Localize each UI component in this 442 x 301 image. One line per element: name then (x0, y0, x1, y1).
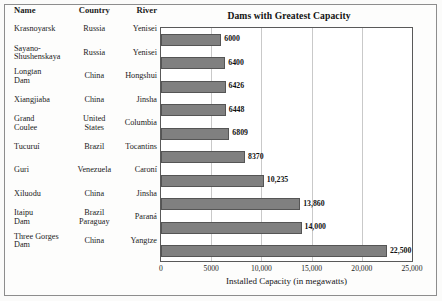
cell-line: Dam (14, 218, 70, 227)
cell-name: Three GorgesDam (5, 230, 72, 254)
bar-value-label: 8370 (248, 152, 264, 161)
cell-river: Caroní (116, 159, 160, 183)
bar[interactable] (161, 34, 221, 46)
cell-line: Paraguay (74, 218, 114, 227)
cell-line: Venezuela (74, 166, 114, 175)
figure-page: Name Country River KrasnoyarskRussiaYeni… (0, 0, 442, 301)
cell-country: Brazil (72, 136, 116, 160)
cell-country: Russia (72, 18, 116, 42)
cell-line: Brazil (74, 143, 114, 152)
cell-line: Yenisei (118, 25, 157, 34)
column-header-name: Name (5, 5, 72, 18)
cell-river: Jinsha (116, 89, 160, 113)
cell-line: Tucuruí (14, 143, 70, 152)
cell-line: Xiangjiaba (14, 96, 70, 105)
cell-line: Xiluodu (14, 190, 70, 199)
table-row: GuriVenezuelaCaroní (5, 159, 160, 183)
bar-value-label: 6400 (228, 58, 244, 67)
cell-name: Xiangjiaba (5, 89, 72, 113)
table-row: KrasnoyarskRussiaYenisei (5, 18, 160, 42)
cell-name: Krasnoyarsk (5, 18, 72, 42)
cell-name: Sayano-Shushenskaya (5, 42, 72, 66)
table-row: GrandCouleeUnitedStatesColumbia (5, 112, 160, 136)
x-axis-label: Installed Capacity (in megawatts) (160, 276, 413, 286)
cell-river: Hongshui (116, 65, 160, 89)
bar-value-label: 6000 (224, 34, 240, 43)
table-row: LongtanDamChinaHongshui (5, 65, 160, 89)
dam-info-table-panel: Name Country River KrasnoyarskRussiaYeni… (5, 5, 160, 295)
bar-value-label: 6448 (229, 105, 245, 114)
table-row: Sayano-ShushenskayaRussiaYenisei (5, 42, 160, 66)
x-tick-label: 20,000 (342, 264, 382, 273)
cell-river: Tocantins (116, 136, 160, 160)
cell-name: LongtanDam (5, 65, 72, 89)
bar-chart-panel: Dams with Greatest Capacity Installed Ca… (160, 5, 437, 296)
cell-line: Guri (14, 166, 70, 175)
cell-name: Guri (5, 159, 72, 183)
cell-line: States (74, 124, 114, 133)
cell-name: Xiluodu (5, 183, 72, 207)
table-header: Name Country River (5, 5, 160, 18)
cell-line: Russia (74, 49, 114, 58)
table-row: ItaipuDamBrazilParaguayParaná (5, 206, 160, 230)
cell-river: Yangtze (116, 230, 160, 254)
cell-line: Dam (14, 77, 70, 86)
x-tick-label: 25,000 (392, 264, 432, 273)
cell-line: Hongshui (118, 72, 157, 81)
bar[interactable] (161, 57, 225, 69)
cell-line: Yangtze (118, 237, 157, 246)
cell-line: Coulee (14, 124, 70, 133)
chart-title: Dams with Greatest Capacity (160, 10, 418, 21)
cell-line: Dam (14, 241, 70, 250)
cell-country: UnitedStates (72, 112, 116, 136)
cell-country: Venezuela (72, 159, 116, 183)
cell-river: Yenisei (116, 18, 160, 42)
table-row: XiluoduChinaJinsha (5, 183, 160, 207)
cell-country: China (72, 183, 116, 207)
cell-name: Tucuruí (5, 136, 72, 160)
cell-line: China (74, 190, 114, 199)
cell-line: China (74, 237, 114, 246)
cell-name: ItaipuDam (5, 206, 72, 230)
bar[interactable] (161, 151, 245, 163)
cell-line: Tocantins (118, 143, 157, 152)
table-row: XiangjiabaChinaJinsha (5, 89, 160, 113)
cell-line: Krasnoyarsk (14, 25, 70, 34)
bar-value-label: 6426 (229, 81, 245, 90)
cell-country: China (72, 65, 116, 89)
bar[interactable] (161, 175, 264, 187)
cell-line: Paraná (118, 213, 157, 222)
x-tick-label: 0 (141, 264, 181, 273)
dam-info-table: Name Country River KrasnoyarskRussiaYeni… (5, 5, 160, 253)
bar-value-label: 22,500 (390, 246, 411, 255)
bar[interactable] (161, 104, 226, 116)
cell-river: Paraná (116, 206, 160, 230)
bar[interactable] (161, 81, 226, 93)
table-body: KrasnoyarskRussiaYeniseiSayano-Shushensk… (5, 18, 160, 253)
x-tick-label: 10,000 (241, 264, 281, 273)
cell-line: Jinsha (118, 96, 157, 105)
bar[interactable] (161, 222, 302, 234)
x-tick-label: 5000 (191, 264, 231, 273)
bar[interactable] (161, 128, 229, 140)
cell-line: Columbia (118, 119, 157, 128)
x-tick-label: 15,000 (292, 264, 332, 273)
bar-value-label: 6809 (232, 128, 248, 137)
cell-line: Jinsha (118, 190, 157, 199)
bar[interactable] (161, 198, 300, 210)
bar-value-label: 13,860 (303, 199, 324, 208)
table-row: Three GorgesDamChinaYangtze (5, 230, 160, 254)
table-header-row: Name Country River (5, 5, 160, 18)
cell-country: Russia (72, 42, 116, 66)
cell-river: Yenisei (116, 42, 160, 66)
gridline (362, 28, 363, 261)
cell-country: China (72, 89, 116, 113)
cell-country: BrazilParaguay (72, 206, 116, 230)
cell-line: Shushenskaya (14, 53, 70, 62)
cell-line: China (74, 96, 114, 105)
cell-country: China (72, 230, 116, 254)
bar-value-label: 14,000 (305, 222, 326, 231)
bar[interactable] (161, 245, 387, 257)
bar-value-label: 10,235 (267, 175, 288, 184)
table-row: TucuruíBrazilTocantins (5, 136, 160, 160)
